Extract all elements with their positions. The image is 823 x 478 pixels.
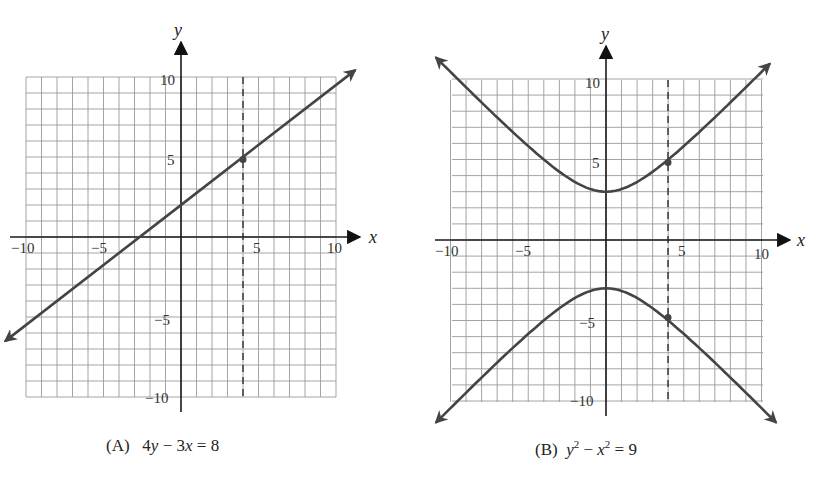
tick-y-neg10-b: −10 [570,393,593,409]
tick-x-5-a: 5 [253,240,261,256]
panel-b: y x −10 −5 5 10 10 5 −5 −10 [435,24,805,422]
y-axis-label-a: y [172,20,182,40]
point-4-5-b [665,159,672,166]
tick-y-neg5-b: −5 [579,315,595,331]
tick-x-10-b: 10 [754,246,769,262]
tick-x-neg10-b: −10 [435,243,458,259]
tick-x-10-a: 10 [327,240,342,256]
caption-b-label: (B) [535,440,558,459]
point-4-neg5-b [665,314,672,321]
tick-y-5-a: 5 [167,152,175,168]
tick-y-10-a: 10 [160,72,175,88]
point-4-5-a [240,156,247,163]
y-axis-label-b: y [599,24,609,44]
caption-b-equation: y2 − x2 = 9 [566,440,637,459]
tick-x-neg5-a: −5 [91,240,107,256]
tick-y-neg5-a: −5 [154,312,170,328]
tick-y-10-b: 10 [585,75,600,91]
hyperbola-upper-branch [437,58,770,192]
x-axis-label-b: x [796,230,805,250]
tick-x-neg10-a: −10 [11,240,34,256]
panel-a: y x −10 −5 5 10 10 5 −5 −10 [6,20,377,412]
caption-b: (B) y2 − x2 = 9 [535,438,637,460]
tick-y-5-b: 5 [592,155,600,171]
figure-canvas: y x −10 −5 5 10 10 5 −5 −10 y x −10 −5 5… [0,0,823,478]
caption-a: (A) 4y − 3x = 8 [106,436,219,456]
tick-y-neg10-a: −10 [145,390,168,406]
caption-a-equation: 4y − 3x = 8 [142,436,219,455]
caption-a-label: (A) [106,436,130,455]
tick-x-neg5-b: −5 [515,243,531,259]
tick-x-5-b: 5 [678,243,686,259]
x-axis-label-a: x [368,227,377,247]
